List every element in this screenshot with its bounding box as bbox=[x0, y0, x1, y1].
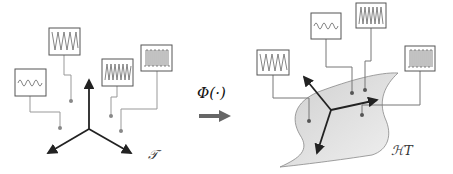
feature-manifold bbox=[280, 73, 398, 167]
signal-box-square bbox=[141, 45, 172, 71]
mapping-arrow bbox=[199, 110, 231, 122]
signal-box-sine bbox=[311, 13, 341, 39]
signal-box-sine bbox=[15, 69, 46, 96]
signal-box-zigzag bbox=[257, 50, 289, 75]
feature-space-label: ℋT bbox=[391, 143, 413, 158]
diagram-canvas bbox=[0, 0, 453, 174]
signal-box-square bbox=[405, 46, 435, 71]
input-space-panel bbox=[15, 28, 172, 153]
data-points bbox=[58, 99, 123, 133]
signal-box-dense-zigzag bbox=[102, 59, 133, 86]
mapping-label: Φ(·) bbox=[197, 84, 226, 102]
signal-box-zigzag bbox=[49, 28, 80, 55]
signal-box-dense-zigzag bbox=[356, 3, 386, 28]
connector-lines bbox=[30, 55, 157, 131]
input-space-label: 𝒯 bbox=[148, 147, 158, 163]
